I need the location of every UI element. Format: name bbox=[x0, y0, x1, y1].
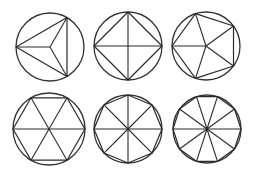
radius-spoke bbox=[128, 105, 152, 129]
radius-spoke bbox=[196, 97, 207, 129]
radius-spoke bbox=[104, 105, 128, 129]
radius-spoke bbox=[196, 129, 207, 161]
polygon-diagram bbox=[0, 0, 254, 177]
radius-spoke bbox=[195, 14, 206, 46]
figure-octagon bbox=[94, 95, 162, 163]
radius-spoke bbox=[207, 129, 218, 161]
radius-spoke bbox=[49, 129, 67, 160]
radius-spoke bbox=[207, 129, 235, 149]
radius-spoke bbox=[195, 46, 206, 78]
figure-decagon bbox=[173, 95, 241, 163]
radius-spoke bbox=[128, 129, 152, 153]
radius-spoke bbox=[31, 98, 49, 129]
radius-spoke bbox=[207, 109, 235, 129]
radius-spoke bbox=[49, 98, 67, 129]
radius-spoke bbox=[179, 129, 207, 149]
figure-pentagon bbox=[172, 12, 240, 80]
radius-spoke bbox=[206, 46, 234, 66]
figure-square bbox=[94, 12, 162, 80]
figure-hexagon bbox=[13, 93, 85, 165]
radius-spoke bbox=[31, 129, 49, 160]
radius-spoke bbox=[179, 109, 207, 129]
radius-spoke bbox=[104, 129, 128, 153]
figure-triangle bbox=[16, 13, 84, 81]
radius-spoke bbox=[207, 97, 218, 129]
radius-spoke bbox=[206, 26, 234, 46]
